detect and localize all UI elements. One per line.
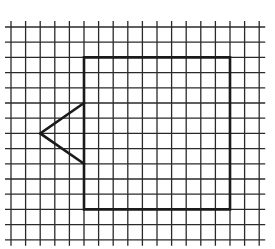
grid-lines <box>5 21 265 246</box>
grid-diagram <box>0 0 275 249</box>
